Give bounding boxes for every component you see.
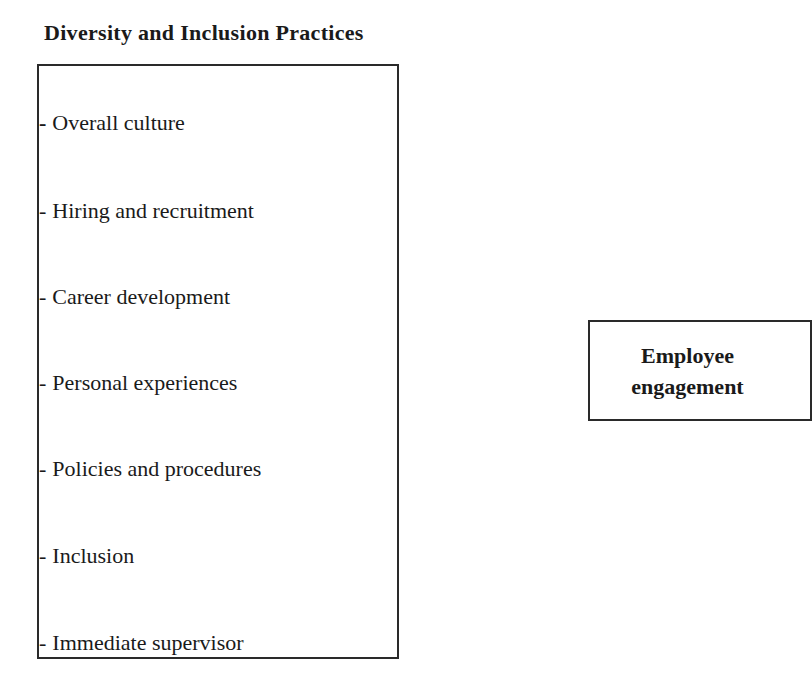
practice-item-overall-culture: -Overall culture [39, 112, 185, 134]
practice-label: Overall culture [52, 110, 185, 135]
bullet-dash: - [39, 372, 46, 394]
practice-item-policies: -Policies and procedures [39, 458, 261, 480]
bullet-dash: - [39, 545, 46, 567]
bullet-dash: - [39, 632, 46, 654]
practice-label: Personal experiences [52, 370, 237, 395]
practice-item-personal-experiences: -Personal experiences [39, 372, 237, 394]
bullet-dash: - [39, 286, 46, 308]
practice-item-inclusion: -Inclusion [39, 545, 134, 567]
bullet-dash: - [39, 112, 46, 134]
practice-item-immediate-supervisor: -Immediate supervisor [39, 632, 244, 654]
practice-label: Inclusion [52, 543, 134, 568]
label-line-2: engagement [590, 371, 785, 402]
practices-title: Diversity and Inclusion Practices [44, 20, 364, 46]
bullet-dash: - [39, 200, 46, 222]
employee-engagement-box: Employee engagement [588, 320, 812, 421]
practice-label: Career development [52, 284, 230, 309]
practice-label: Hiring and recruitment [52, 198, 254, 223]
bullet-dash: - [39, 458, 46, 480]
practice-item-hiring: -Hiring and recruitment [39, 200, 254, 222]
label-line-1: Employee [590, 340, 785, 371]
employee-engagement-label: Employee engagement [590, 340, 785, 402]
practice-label: Policies and procedures [52, 456, 261, 481]
practices-box: -Overall culture -Hiring and recruitment… [37, 64, 399, 659]
practice-label: Immediate supervisor [52, 630, 243, 655]
practice-item-career-development: -Career development [39, 286, 230, 308]
